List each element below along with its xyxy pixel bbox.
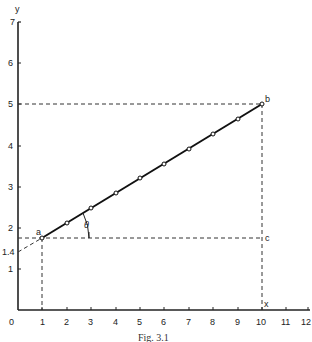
x-tick-label: 11: [281, 317, 290, 327]
theta-label: θ: [84, 220, 89, 230]
y-tick-label: 6: [8, 58, 13, 68]
point-a-label: a: [36, 227, 41, 237]
line-ab: [42, 104, 262, 238]
x-tick-label: 3: [88, 317, 93, 327]
y-tick-label: 3: [8, 182, 13, 192]
y-tick-label: 1: [8, 264, 13, 274]
figure-3-1: 0 1 2 3 4 5 6 7 8 9 10 11 12 1 2 3 4 5 6…: [0, 0, 312, 342]
x-tick-label: 4: [113, 317, 118, 327]
guide-lines: [18, 104, 262, 310]
x-tick-label: 8: [210, 317, 215, 327]
x-foot-label: x: [264, 299, 269, 309]
point-c-label: c: [265, 233, 270, 243]
y-tick-label: 4: [8, 141, 13, 151]
intercept-label: 1.4: [2, 247, 15, 257]
x-tick-label: 5: [137, 317, 142, 327]
x-tick-label: 6: [161, 317, 166, 327]
point-b-label: b: [265, 94, 270, 104]
x-tick-label: 9: [235, 317, 240, 327]
y-axis-label: y: [15, 4, 20, 14]
x-tick-label: 2: [64, 317, 69, 327]
origin-label: 0: [9, 317, 14, 327]
x-tick-label: 10: [256, 317, 266, 327]
y-tick-label: 5: [8, 99, 13, 109]
x-tick-label: 1: [40, 317, 45, 327]
x-tick-label: 12: [301, 317, 311, 327]
y-tick-label: 2: [8, 223, 13, 233]
y-tick-label: 7: [10, 17, 15, 27]
x-tick-label: 7: [186, 317, 191, 327]
figure-caption: Fig. 3.1: [138, 332, 169, 342]
